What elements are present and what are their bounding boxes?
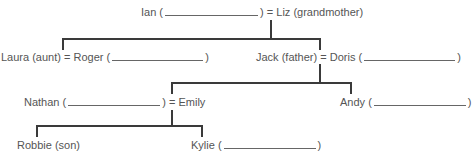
laura-branch-line — [62, 38, 64, 50]
robbie-branch-line — [36, 125, 38, 137]
jack-doris-equals: = — [320, 51, 326, 63]
jack-doris-couple: Jack (father) = Doris () — [256, 51, 461, 64]
doris-open-paren: ( — [358, 51, 362, 63]
robbie-name: Robbie — [17, 139, 52, 151]
ian-liz-descent-line — [270, 20, 272, 40]
kylie-name: Kylie — [191, 139, 215, 151]
nathan-emily-equals: = — [169, 96, 175, 108]
andy-close-paren: ) — [468, 96, 472, 108]
kylie-branch-line — [201, 125, 203, 137]
ian-liz-equals: = — [267, 6, 273, 18]
ian-close-paren: ) — [260, 6, 264, 18]
liz-name: Liz — [276, 6, 290, 18]
jack-branch-line — [319, 38, 321, 50]
ian-relation-blank[interactable] — [165, 6, 258, 16]
jack-doris-descent-line — [319, 64, 321, 84]
andy-name: Andy — [340, 96, 365, 108]
robbie-node: Robbie (son) — [17, 139, 80, 151]
roger-close-paren: ) — [205, 51, 209, 63]
doris-relation-blank[interactable] — [364, 51, 455, 61]
andy-branch-line — [350, 82, 352, 94]
andy-relation-blank[interactable] — [374, 96, 466, 106]
laura-roger-couple: Laura (aunt) = Roger () — [1, 51, 209, 64]
jack-relation: (father) — [282, 51, 317, 63]
robbie-relation: (son) — [55, 139, 80, 151]
gen4-sibling-line — [36, 125, 203, 127]
emily-name: Emily — [178, 96, 205, 108]
nathan-open-paren: ( — [63, 96, 67, 108]
gen2-sibling-line — [62, 38, 321, 40]
ian-name: Ian — [141, 6, 156, 18]
gen3-sibling-line — [171, 82, 352, 84]
doris-name: Doris — [330, 51, 356, 63]
doris-close-paren: ) — [457, 51, 461, 63]
laura-name: Laura — [1, 51, 29, 63]
laura-roger-equals: = — [64, 51, 70, 63]
kylie-relation-blank[interactable] — [224, 139, 316, 149]
roger-open-paren: ( — [107, 51, 111, 63]
liz-relation: (grandmother) — [293, 6, 363, 18]
roger-relation-blank[interactable] — [112, 51, 203, 61]
jack-name: Jack — [256, 51, 279, 63]
nathan-relation-blank[interactable] — [68, 96, 160, 106]
ian-liz-couple: Ian () = Liz (grandmother) — [141, 6, 363, 19]
kylie-node: Kylie () — [191, 139, 321, 151]
emily-branch-line — [171, 82, 173, 94]
kylie-close-paren: ) — [318, 139, 322, 151]
kylie-open-paren: ( — [218, 139, 222, 151]
ian-open-paren: ( — [159, 6, 163, 18]
nathan-emily-couple: Nathan () = Emily — [24, 96, 205, 109]
andy-open-paren: ( — [368, 96, 372, 108]
laura-relation: (aunt) — [32, 51, 61, 63]
nathan-name: Nathan — [24, 96, 59, 108]
nathan-close-paren: ) — [162, 96, 166, 108]
andy-node: Andy () — [340, 96, 471, 109]
roger-name: Roger — [74, 51, 104, 63]
